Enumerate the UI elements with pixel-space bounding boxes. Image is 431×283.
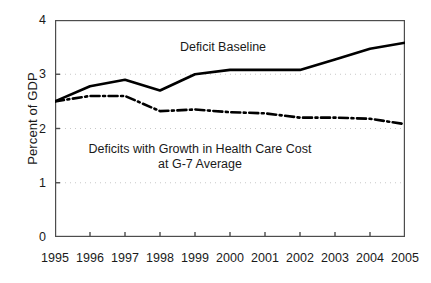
y-tick-label: 3 <box>30 67 46 81</box>
annotation-g7-average: Deficits with Growth in Health Care Cost… <box>60 142 340 172</box>
x-tick-label: 2005 <box>383 250 427 266</box>
annotation-g7-line-2: at G-7 Average <box>60 157 340 172</box>
chart-figure: Percent of GDP 01234 1995199619971998199… <box>0 0 431 283</box>
y-tick-label: 0 <box>30 230 46 244</box>
annotation-deficit-baseline: Deficit Baseline <box>138 40 308 55</box>
y-tick-label: 4 <box>30 13 46 27</box>
y-tick-label: 1 <box>30 176 46 190</box>
y-tick-label: 2 <box>30 122 46 136</box>
y-axis-tick-labels: 01234 <box>24 0 46 283</box>
series-line-g7-average <box>55 96 405 124</box>
x-axis-tick-labels: 1995199619971998199920002001200220032004… <box>0 250 431 270</box>
annotation-g7-line-1: Deficits with Growth in Health Care Cost <box>60 142 340 157</box>
